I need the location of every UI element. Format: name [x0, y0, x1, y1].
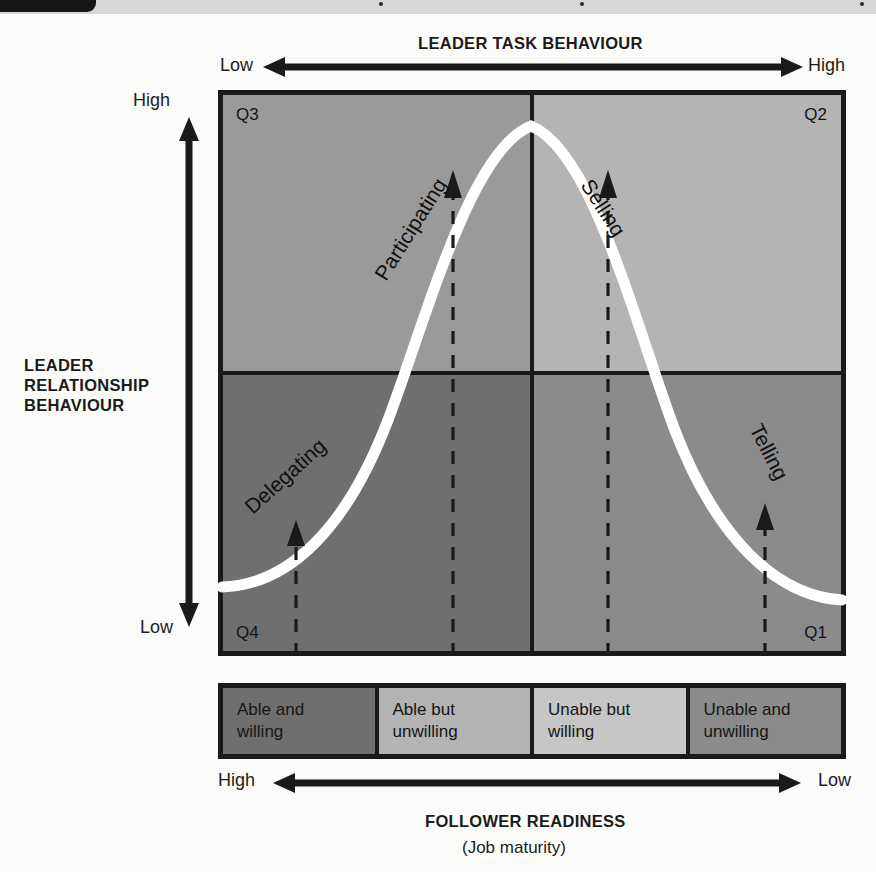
- readiness-level-1-label: Able and willing: [237, 699, 304, 743]
- bottom-axis-right-label: Low: [818, 770, 851, 791]
- leadership-matrix: Q3 Q2 Q4 Q1: [218, 90, 846, 656]
- top-axis-arrow: [263, 54, 803, 80]
- quadrant-q4[interactable]: Q4: [223, 375, 530, 651]
- left-axis-title: LEADER RELATIONSHIP BEHAVIOUR: [24, 355, 149, 415]
- left-axis-top-label: High: [133, 90, 170, 111]
- readiness-level-1[interactable]: Able and willing: [223, 688, 375, 754]
- top-axis-left-label: Low: [220, 55, 253, 76]
- diagram-page: LEADER TASK BEHAVIOUR Low High High Low …: [0, 0, 876, 872]
- quadrant-q3[interactable]: Q3: [223, 95, 530, 371]
- follower-readiness-bar: Able and willing Able but unwilling Unab…: [218, 683, 846, 759]
- readiness-level-3[interactable]: Unable but willing: [534, 688, 686, 754]
- readiness-level-3-label: Unable but willing: [548, 699, 630, 743]
- left-axis-title-line3: BEHAVIOUR: [24, 395, 149, 415]
- readiness-level-4-label: Unable and unwilling: [704, 699, 791, 743]
- quadrant-q1-label: Q1: [804, 623, 827, 643]
- quadrant-q2[interactable]: Q2: [534, 95, 841, 371]
- quadrant-q3-label: Q3: [236, 105, 259, 125]
- quadrant-q2-label: Q2: [804, 105, 827, 125]
- quadrant-q1[interactable]: Q1: [534, 375, 841, 651]
- scan-speck-b: [580, 2, 584, 6]
- scan-speck-a: [379, 2, 383, 6]
- left-axis-bottom-label: Low: [140, 617, 173, 638]
- bottom-axis-subtitle: (Job maturity): [462, 838, 566, 858]
- bottom-axis-arrow: [273, 770, 801, 796]
- left-axis-arrow: [176, 117, 202, 627]
- quadrant-q4-label: Q4: [236, 623, 259, 643]
- readiness-level-4[interactable]: Unable and unwilling: [690, 688, 842, 754]
- scan-edge-strip: [0, 0, 876, 14]
- readiness-level-2-label: Able but unwilling: [393, 699, 458, 743]
- top-axis-right-label: High: [808, 55, 845, 76]
- left-axis-title-line2: RELATIONSHIP: [24, 375, 149, 395]
- bottom-axis-left-label: High: [218, 770, 255, 791]
- top-axis-title: LEADER TASK BEHAVIOUR: [418, 34, 643, 53]
- scan-black-corner: [0, 0, 96, 12]
- readiness-level-2[interactable]: Able but unwilling: [379, 688, 531, 754]
- left-axis-title-line1: LEADER: [24, 355, 149, 375]
- scan-speck-c: [860, 2, 864, 6]
- bottom-axis-title: FOLLOWER READINESS: [425, 812, 626, 831]
